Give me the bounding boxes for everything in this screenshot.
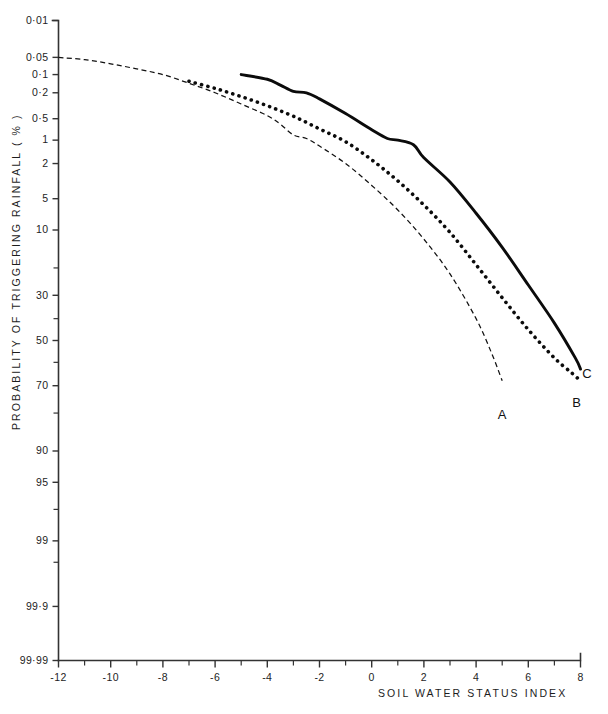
y-tick-label: 99·9 [26,600,49,612]
x-axis-title: SOIL WATER STATUS INDEX [378,687,567,699]
x-tick-label: 0 [369,671,375,683]
data-curves [59,57,581,380]
y-tick-label: 99·99 [20,654,49,666]
y-tick-label: 5 [42,192,48,204]
y-tick-label: 10 [36,223,48,235]
curve-label-b: B [572,395,581,410]
curve-b-series [189,81,581,380]
x-tick-label: -4 [262,671,272,683]
curve-labels-group: ABC [498,366,592,422]
x-tick-label: 6 [525,671,531,683]
curve-c-series [241,75,580,370]
y-tick-label: 90 [36,444,48,456]
axes-group [53,21,581,661]
x-axis-tick-labels: -12-10-8-6-4-202468 [50,671,583,683]
x-axis-line [59,654,581,661]
y-tick-label: 95 [36,476,48,488]
x-tick-label: 4 [473,671,479,683]
y-tick-label: 99 [36,534,48,546]
x-tick-label: 8 [577,671,583,683]
y-axis-ticks [53,21,59,661]
curve-label-a: A [498,407,507,422]
y-axis-tick-labels: 0·010·050·10·20·51251030507090959999·999… [20,14,49,666]
y-tick-label: 50 [36,334,48,346]
x-tick-label: -10 [103,671,119,683]
y-tick-label: 2 [42,157,48,169]
y-tick-label: 0·5 [32,112,48,124]
y-tick-label: 0·1 [32,68,48,80]
chart-canvas: 0·010·050·10·20·51251030507090959999·999… [0,0,608,714]
x-tick-label: 2 [421,671,427,683]
probability-chart-figure: 0·010·050·10·20·51251030507090959999·999… [0,0,608,714]
x-tick-label: -8 [158,671,168,683]
y-tick-label: 0·01 [26,14,49,26]
y-tick-label: 0·05 [26,51,49,63]
curve-label-c: C [582,366,591,381]
y-tick-label: 1 [42,133,48,145]
y-axis-title: PROBABILITY OF TRIGGERING RAINFALL ( % ) [10,113,22,430]
x-tick-label: -2 [314,671,324,683]
x-tick-label: -6 [210,671,220,683]
y-tick-label: 70 [36,379,48,391]
curve-a-series [59,57,503,380]
y-tick-label: 0·2 [32,86,48,98]
x-tick-label: -12 [50,671,66,683]
y-tick-label: 30 [36,289,48,301]
